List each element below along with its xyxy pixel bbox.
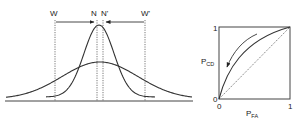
roc-panel: 1 0 0 1 PCD PFA: [201, 24, 293, 119]
y-axis-label: PCD: [201, 57, 214, 67]
x-tick-0: 0: [217, 102, 222, 111]
roc-direction-arrow: [227, 34, 257, 67]
label-w-prime: W': [141, 9, 151, 18]
label-n: N: [91, 9, 97, 18]
wide-gaussian-curve: [6, 62, 192, 97]
chance-diagonal: [219, 27, 290, 99]
distribution-panel: W N N' W': [5, 9, 193, 101]
label-w: W: [50, 9, 58, 18]
narrow-gaussian-curve: [46, 25, 155, 97]
label-n-prime: N': [101, 9, 109, 18]
x-tick-1: 1: [288, 102, 293, 111]
y-tick-1: 1: [213, 24, 218, 33]
diagram-canvas: W N N' W' 1 0 0 1 PCD PFA: [0, 0, 299, 122]
x-axis-label: PFA: [246, 109, 258, 119]
